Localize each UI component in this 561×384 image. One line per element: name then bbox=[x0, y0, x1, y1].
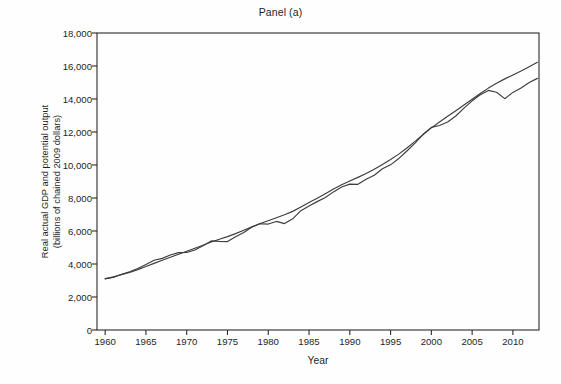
line-actual-gdp bbox=[105, 78, 537, 278]
data-series-group bbox=[105, 62, 537, 279]
line-potential-output bbox=[105, 62, 537, 279]
y-axis-tick-marks bbox=[92, 33, 97, 330]
plot-border bbox=[97, 33, 539, 330]
x-axis-tick-marks bbox=[105, 330, 513, 335]
axes-frame bbox=[97, 33, 539, 330]
plot-area bbox=[0, 0, 561, 384]
chart-figure: Panel (a) Real actual GDP and potential … bbox=[0, 0, 561, 384]
